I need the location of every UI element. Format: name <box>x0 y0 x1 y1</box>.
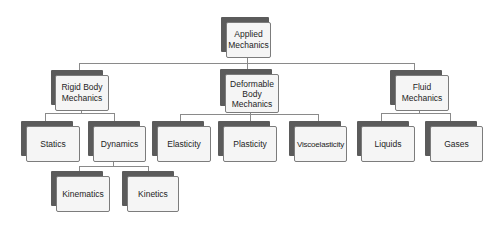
node-box: Kinetics <box>127 176 179 212</box>
node-label: Gases <box>444 139 469 150</box>
node-label: Elasticity <box>167 139 201 150</box>
connector-rigid-bar <box>45 113 115 114</box>
connector-dynamics-bar <box>79 166 149 167</box>
mechanics-hierarchy-diagram: Applied Mechanics Rigid Body Mechanics D… <box>0 0 493 226</box>
node-label: Kinetics <box>138 189 168 200</box>
node-label: Kinematics <box>62 189 104 200</box>
node-box: Deformable Body Mechanics <box>225 74 279 113</box>
node-label: Rigid Body Mechanics <box>61 82 102 104</box>
node-box: Gases <box>430 126 483 162</box>
node-label: Applied Mechanics <box>228 29 269 51</box>
node-label: Fluid Mechanics <box>402 82 443 104</box>
node-label: Liquids <box>375 139 402 150</box>
node-label: Viscoelasticity <box>297 139 344 150</box>
node-box: Viscoelasticity <box>294 126 347 162</box>
node-box: Applied Mechanics <box>226 22 271 58</box>
node-label: Plasticity <box>233 139 267 150</box>
node-box: Plasticity <box>223 126 277 162</box>
node-box: Dynamics <box>93 126 146 162</box>
node-box: Fluid Mechanics <box>395 75 449 111</box>
node-box: Liquids <box>361 126 415 162</box>
node-box: Kinematics <box>56 176 110 212</box>
node-label: Deformable Body Mechanics <box>230 79 274 109</box>
node-box: Elasticity <box>157 126 211 162</box>
node-box: Rigid Body Mechanics <box>55 75 109 111</box>
connector-fluid-bar <box>381 113 451 114</box>
node-label: Statics <box>40 139 66 150</box>
node-label: Dynamics <box>101 139 138 150</box>
node-box: Statics <box>26 126 80 162</box>
